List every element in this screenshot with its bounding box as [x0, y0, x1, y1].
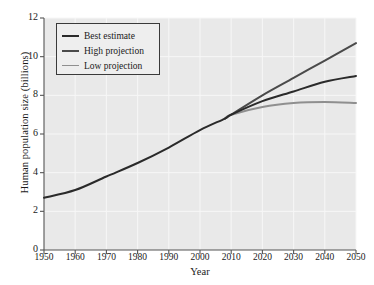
chart-legend: Best estimateHigh projectionLow projecti…	[56, 23, 160, 75]
y-axis-title: Human population size (billions)	[19, 13, 30, 233]
legend-item[interactable]: Low projection	[62, 58, 154, 73]
legend-line-swatch	[62, 50, 79, 52]
legend-label: High projection	[84, 46, 144, 56]
legend-line-swatch	[62, 35, 79, 37]
x-tick-label: 2050	[336, 252, 374, 262]
legend-line-swatch	[62, 65, 79, 67]
legend-item[interactable]: High projection	[62, 43, 154, 58]
x-axis-title: Year	[44, 266, 356, 277]
population-projection-chart: 024681012 195019601970198019902000201020…	[0, 0, 374, 285]
legend-item[interactable]: Best estimate	[62, 28, 154, 43]
legend-label: Low projection	[84, 61, 142, 71]
legend-label: Best estimate	[84, 31, 135, 41]
